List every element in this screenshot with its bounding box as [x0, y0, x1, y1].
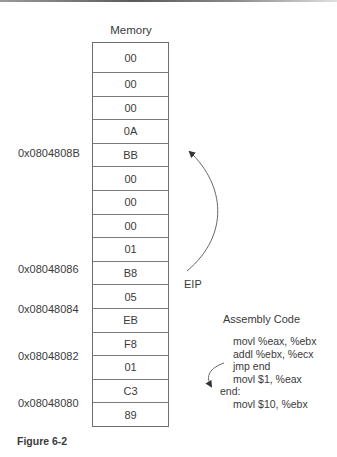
asm-line: movl %eax, %ebx [233, 335, 316, 348]
eip-label: EIP [184, 278, 202, 290]
asm-label-line: end: [220, 385, 316, 398]
assembly-title: Assembly Code [223, 313, 300, 325]
asm-line: movl $1, %eax [233, 373, 316, 386]
asm-line: addl %ebx, %ecx [233, 348, 316, 361]
assembly-code: movl %eax, %ebx addl %ebx, %ecx jmp end … [233, 335, 316, 411]
figure-caption: Figure 6-2 [17, 435, 67, 447]
asm-line: jmp end [233, 360, 316, 373]
jmp-arrow [209, 363, 224, 386]
asm-line: movl $10, %ebx [233, 398, 316, 411]
eip-jump-arrow [187, 152, 218, 271]
